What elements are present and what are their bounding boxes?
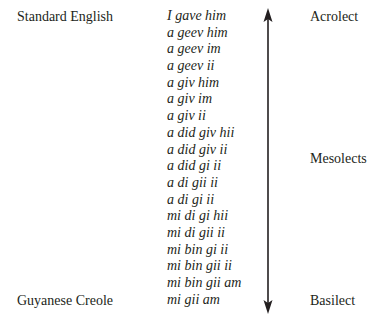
continuum-forms-list: I gave him a geev him a geev im a geev i… [167, 8, 241, 308]
form-item: mi bin gii am [167, 275, 241, 292]
form-item: a di gii ii [167, 175, 241, 192]
label-guyanese-creole: Guyanese Creole [17, 292, 113, 309]
double-headed-arrow-icon [260, 6, 276, 316]
form-item: mi gii am [167, 292, 241, 309]
label-mesolects: Mesolects [310, 150, 367, 167]
label-basilect: Basilect [310, 292, 355, 309]
form-item: mi bin gi ii [167, 242, 241, 259]
form-item: a did giv ii [167, 142, 241, 159]
form-item: I gave him [167, 8, 241, 25]
form-item: a giv him [167, 75, 241, 92]
form-item: a geev im [167, 41, 241, 58]
form-item: a geev ii [167, 58, 241, 75]
form-item: a did gi ii [167, 158, 241, 175]
label-standard-english: Standard English [17, 8, 113, 25]
form-item: a geev him [167, 25, 241, 42]
form-item: mi bin gii ii [167, 258, 241, 275]
label-acrolect: Acrolect [310, 8, 358, 25]
form-item: a giv ii [167, 108, 241, 125]
form-item: mi di gi hii [167, 208, 241, 225]
form-item: a did giv hii [167, 125, 241, 142]
form-item: a giv im [167, 91, 241, 108]
form-item: a di gi ii [167, 192, 241, 209]
form-item: mi di gii ii [167, 225, 241, 242]
